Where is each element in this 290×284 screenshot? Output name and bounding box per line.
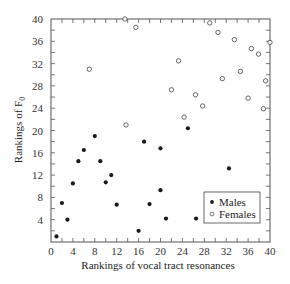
- female-data-point: [268, 40, 272, 44]
- x-tick-label: 20: [155, 245, 167, 257]
- legend: Males Females: [204, 192, 260, 223]
- y-tick-label: 20: [32, 125, 44, 137]
- female-data-point: [124, 123, 128, 127]
- y-tick-label: 16: [32, 147, 44, 159]
- male-data-point: [71, 181, 75, 185]
- x-tick-label: 8: [92, 245, 98, 257]
- male-data-point: [186, 126, 190, 130]
- legend-label-males: Males: [219, 196, 246, 208]
- female-data-point: [193, 93, 197, 97]
- x-tick-label: 32: [221, 245, 232, 257]
- male-data-point: [109, 173, 113, 177]
- female-data-point: [87, 67, 91, 71]
- y-tick-label: 36: [32, 35, 44, 47]
- female-data-point: [246, 96, 250, 100]
- x-axis-title: Rankings of vocal tract resonances: [81, 259, 234, 271]
- male-data-point: [76, 159, 80, 163]
- female-data-point: [232, 37, 236, 41]
- x-tick-label: 12: [111, 245, 122, 257]
- y-tick-label: 28: [32, 80, 44, 92]
- male-data-point: [104, 180, 108, 184]
- male-data-point: [147, 202, 151, 206]
- female-data-point: [208, 21, 212, 25]
- male-data-point: [158, 188, 162, 192]
- female-data-point: [261, 107, 265, 111]
- male-data-point: [142, 140, 146, 144]
- male-data-point: [98, 159, 102, 163]
- female-data-point: [220, 76, 224, 80]
- male-data-point: [137, 229, 141, 233]
- legend-label-females: Females: [219, 208, 256, 220]
- male-data-point: [115, 203, 119, 207]
- male-data-point: [60, 201, 64, 205]
- female-data-point: [256, 52, 260, 56]
- x-tick-label: 28: [199, 245, 211, 257]
- female-data-point: [249, 46, 253, 50]
- female-data-point: [238, 69, 242, 73]
- y-axis-title: Rankings of F0: [12, 97, 27, 163]
- female-data-point: [123, 17, 127, 21]
- x-tick-label: 4: [70, 245, 76, 257]
- female-data-point: [200, 104, 204, 108]
- x-tick-label: 24: [177, 245, 189, 257]
- male-data-point: [54, 234, 58, 238]
- y-tick-label: 8: [38, 191, 44, 203]
- male-data-point: [93, 134, 97, 138]
- female-data-point: [263, 79, 267, 83]
- legend-male-marker-icon: [210, 200, 214, 204]
- female-data-point: [176, 59, 180, 63]
- x-tick-label: 36: [243, 245, 255, 257]
- male-data-point: [65, 218, 69, 222]
- female-data-point: [182, 115, 186, 119]
- x-tick-label: 0: [48, 245, 54, 257]
- y-tick-label: 12: [32, 169, 43, 181]
- scatter-chart: 0481216202428323640481216202428323640 Ra…: [0, 0, 290, 284]
- male-data-point: [194, 216, 198, 220]
- male-data-point: [158, 146, 162, 150]
- male-data-point: [227, 166, 231, 170]
- y-tick-label: 24: [32, 102, 44, 114]
- male-data-point: [164, 216, 168, 220]
- x-tick-label: 16: [133, 245, 145, 257]
- female-data-point: [216, 30, 220, 34]
- x-tick-label: 40: [265, 245, 277, 257]
- male-data-point: [82, 148, 86, 152]
- female-data-point: [134, 25, 138, 29]
- y-tick-label: 40: [32, 13, 44, 25]
- y-tick-label: 4: [38, 214, 44, 226]
- y-tick-label: 32: [32, 58, 43, 70]
- female-data-point: [169, 88, 173, 92]
